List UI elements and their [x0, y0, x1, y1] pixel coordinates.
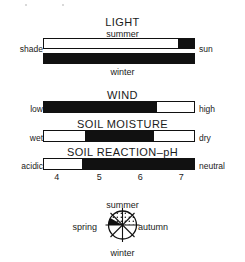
soil-moisture-left-label: wet [30, 133, 43, 143]
soil-moisture-bar-fill [85, 131, 154, 141]
figure-canvas: LIGHT summer shade sun winter WIND low h… [0, 0, 245, 262]
wind-bar-fill [44, 102, 157, 112]
wind-bar [43, 101, 195, 113]
wheel-label-autumn: autumn [138, 222, 168, 232]
ph-tick-label: 4 [54, 172, 59, 182]
soil-reaction-section-title: SOIL REACTION–pH [0, 146, 245, 158]
light-section-title: LIGHT [0, 16, 245, 28]
wind-right-label: high [199, 104, 215, 114]
season-wheel: summer spring autumn winter [0, 200, 245, 262]
light-summer-bar [43, 38, 195, 49]
ph-tick-label: 6 [138, 172, 143, 182]
wheel-label-spring: spring [72, 222, 97, 232]
ph-tick-label: 5 [97, 172, 102, 182]
scan-speck [62, 4, 64, 6]
light-left-label: shade [20, 44, 43, 54]
light-summer-bar-fill [178, 39, 195, 48]
ph-axis: 4 5 6 7 [43, 172, 195, 184]
soil-reaction-bar-fill [82, 159, 195, 169]
ph-tick-label: 7 [179, 172, 184, 182]
soil-reaction-bar [43, 158, 195, 170]
scan-speck [25, 4, 27, 6]
light-winter-bar [43, 53, 195, 64]
season-wheel-diagram [104, 200, 141, 248]
soil-reaction-right-label: neutral [199, 161, 225, 171]
soil-reaction-left-label: acidic [21, 161, 43, 171]
wheel-label-winter: winter [0, 248, 245, 258]
wind-left-label: low [30, 104, 43, 114]
light-winter-label: winter [0, 67, 245, 77]
soil-moisture-right-label: dry [199, 133, 211, 143]
soil-moisture-bar [43, 130, 195, 142]
wind-section-title: WIND [0, 89, 245, 101]
light-right-label: sun [199, 44, 213, 54]
soil-moisture-section-title: SOIL MOISTURE [0, 118, 245, 130]
